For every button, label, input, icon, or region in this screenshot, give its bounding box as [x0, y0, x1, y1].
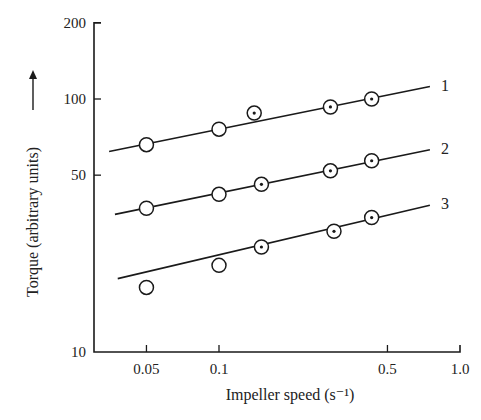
y-tick-label: 200: [64, 15, 87, 31]
open-circle-marker: [139, 138, 153, 152]
marker-center-dot: [253, 111, 256, 114]
y-tick-label: 10: [71, 344, 86, 360]
torque-vs-speed-plot: 10501002000.050.10.51.0 123 Impeller spe…: [0, 0, 481, 420]
series-label-3: 3: [441, 195, 449, 212]
x-tick-label: 0.5: [378, 361, 397, 377]
marker-center-dot: [370, 216, 373, 219]
x-tick-label: 0.1: [210, 361, 229, 377]
arrow-up-icon: [29, 70, 37, 79]
marker-center-dot: [329, 105, 332, 108]
marker-center-dot: [329, 169, 332, 172]
open-circle-marker: [212, 187, 226, 201]
x-tick-label: 0.05: [133, 361, 159, 377]
series-label-2: 2: [441, 140, 449, 157]
axes: 10501002000.050.10.51.0: [64, 15, 470, 377]
open-circle-marker: [212, 258, 226, 272]
series-label-1: 1: [441, 77, 449, 94]
y-tick-label: 100: [64, 91, 87, 107]
open-circle-marker: [212, 122, 226, 136]
marker-center-dot: [260, 245, 263, 248]
x-tick-label: 1.0: [451, 361, 470, 377]
fit-lines: [109, 87, 430, 279]
y-axis-title-group: Torque (arbitrary units): [24, 70, 42, 297]
open-circle-marker: [139, 201, 153, 215]
marker-center-dot: [370, 159, 373, 162]
y-tick-label: 50: [71, 167, 86, 183]
fit-line-series-1: [109, 87, 430, 152]
open-circle-marker: [139, 280, 153, 294]
chart-container: 10501002000.050.10.51.0 123 Impeller spe…: [0, 0, 481, 420]
y-axis-title: Torque (arbitrary units): [24, 147, 42, 297]
marker-center-dot: [370, 97, 373, 100]
fit-line-series-3: [118, 205, 430, 278]
axis-frame: [94, 23, 460, 352]
data-points: [139, 92, 378, 294]
marker-center-dot: [332, 230, 335, 233]
series-labels: 123: [441, 77, 449, 213]
fit-line-series-2: [115, 150, 430, 215]
x-axis-title: Impeller speed (s⁻¹): [226, 386, 355, 404]
marker-center-dot: [260, 183, 263, 186]
